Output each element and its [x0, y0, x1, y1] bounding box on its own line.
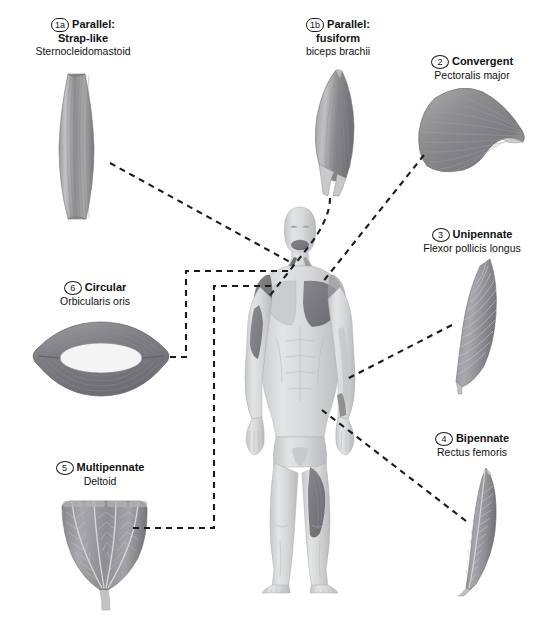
label-6-subtitle: Orbicularis oris: [20, 295, 170, 307]
callout-number-3: 3: [432, 228, 450, 242]
label-3-subtitle: Flexor pollicis longus: [400, 242, 544, 254]
label-1b[interactable]: 1bParallel: fusiform biceps brachii: [268, 18, 408, 57]
fusiform-muscle-icon: [306, 68, 372, 198]
label-4-subtitle: Rectus femoris: [400, 446, 544, 458]
label-1a-subtitle: Sternocleidomastoid: [8, 45, 158, 57]
label-1b-title2: fusiform: [268, 32, 408, 45]
callout-number-2: 2: [431, 55, 449, 69]
label-3-title: Unipennate: [453, 228, 513, 240]
callout-number-4: 4: [435, 432, 453, 446]
bipennate-muscle-icon: [452, 466, 520, 596]
label-1a-title: Parallel:: [72, 18, 115, 30]
callout-number-6: 6: [64, 281, 82, 295]
callout-number-5: 5: [56, 461, 74, 475]
label-4-title-line: 4Bipennate: [400, 432, 544, 446]
strap-like-muscle-icon: [48, 72, 106, 222]
label-4-title: Bipennate: [456, 432, 509, 444]
label-5-subtitle: Deltoid: [20, 475, 180, 487]
diagram-canvas: 1aParallel: Strap-like Sternocleidomasto…: [0, 0, 544, 624]
label-6-title-line: 6Circular: [20, 281, 170, 295]
unipennate-muscle-icon: [444, 256, 514, 396]
orbicularis-oris-highlight: [291, 240, 309, 250]
label-1a[interactable]: 1aParallel: Strap-like Sternocleidomasto…: [8, 18, 158, 57]
label-5-title-line: 5Multipennate: [20, 461, 180, 475]
label-6[interactable]: 6Circular Orbicularis oris: [20, 281, 170, 307]
label-5[interactable]: 5Multipennate Deltoid: [20, 461, 180, 487]
label-3[interactable]: 3Unipennate Flexor pollicis longus: [400, 228, 544, 254]
label-5-title: Multipennate: [77, 461, 145, 473]
label-2[interactable]: 2Convergent Pectoralis major: [400, 55, 544, 81]
label-1b-subtitle: biceps brachii: [268, 45, 408, 57]
circular-muscle-icon: [26, 318, 176, 402]
label-2-title: Convergent: [452, 55, 513, 67]
label-3-title-line: 3Unipennate: [400, 228, 544, 242]
callout-number-1a: 1a: [51, 18, 69, 32]
callout-number-1b: 1b: [306, 18, 324, 32]
label-1a-title-line: 1aParallel:: [8, 18, 158, 32]
label-2-title-line: 2Convergent: [400, 55, 544, 69]
convergent-muscle-icon: [405, 80, 537, 180]
multipennate-muscle-icon: [54, 496, 156, 596]
label-1b-title-line: 1bParallel:: [268, 18, 408, 32]
human-anatomical-figure: [232, 205, 368, 595]
label-1a-title2: Strap-like: [8, 32, 158, 45]
label-1b-title: Parallel:: [327, 18, 370, 30]
label-2-subtitle: Pectoralis major: [400, 69, 544, 81]
label-6-title: Circular: [85, 281, 127, 293]
label-4[interactable]: 4Bipennate Rectus femoris: [400, 432, 544, 458]
